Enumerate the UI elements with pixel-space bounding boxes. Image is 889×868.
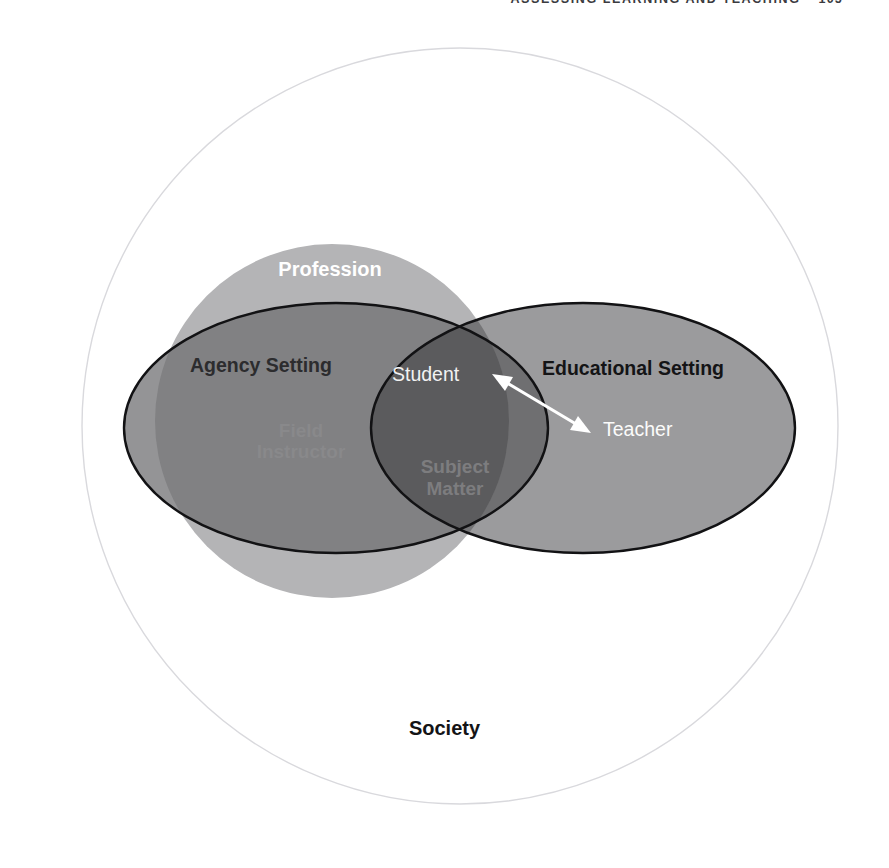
label-subject-matter-line1: Subject xyxy=(395,456,515,478)
label-student: Student xyxy=(392,363,459,386)
label-educational-setting: Educational Setting xyxy=(542,357,724,380)
label-teacher: Teacher xyxy=(603,418,672,441)
label-society: Society xyxy=(0,717,889,740)
label-agency-setting: Agency Setting xyxy=(190,354,332,377)
label-field-instructor-line2: Instructor xyxy=(206,441,396,462)
label-field-instructor-line1: Field xyxy=(206,420,396,441)
label-subject-matter: Subject Matter xyxy=(395,456,515,499)
label-field-instructor: Field Instructor xyxy=(206,420,396,463)
venn-diagram-figure: Profession Agency Setting Field Instruct… xyxy=(0,0,889,868)
label-subject-matter-line2: Matter xyxy=(395,478,515,500)
label-profession: Profession xyxy=(0,258,660,281)
